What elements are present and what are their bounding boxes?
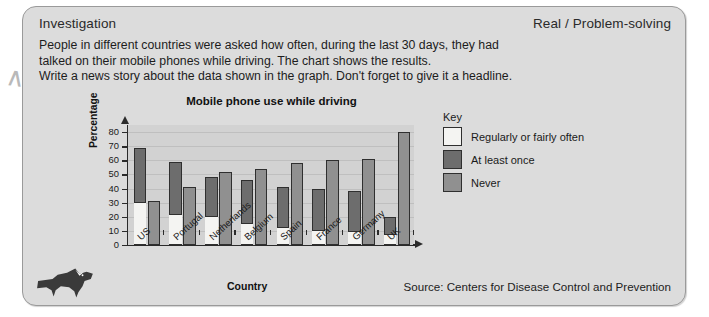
instruction-line-2: talked on their mobile phones while driv… <box>39 54 671 70</box>
chart-title-row: Mobile phone use while driving <box>23 95 685 107</box>
instruction-line-1: People in different countries were asked… <box>39 38 671 54</box>
legend-item-label: Regularly or fairly often <box>471 131 584 143</box>
y-axis-arrow-icon <box>121 116 129 124</box>
x-axis-tick <box>270 230 271 235</box>
y-axis-tick-label: 60 <box>99 155 119 164</box>
y-axis-tick-label: 40 <box>99 184 119 193</box>
x-axis-tick <box>342 230 343 235</box>
y-axis-tick-label: 70 <box>99 141 119 150</box>
x-axis-tick <box>199 230 200 235</box>
legend-swatch-icon <box>443 173 462 192</box>
legend-item: Never <box>443 173 633 192</box>
legend-swatch-icon <box>443 150 462 169</box>
x-axis-tick <box>306 230 307 235</box>
instruction-text: People in different countries were asked… <box>39 38 671 85</box>
y-axis-title: Percentage <box>88 92 99 148</box>
bar-never-us <box>148 201 161 245</box>
instruction-line-3: Write a news story about the data shown … <box>39 69 671 85</box>
x-axis-tick <box>163 230 164 235</box>
bar-never-uk <box>398 132 411 245</box>
legend-item-label: Never <box>471 177 500 189</box>
x-axis-tick <box>127 230 128 235</box>
panel-category-label: Real / Problem-solving <box>533 16 671 31</box>
screenshot-root: ∧ Investigation Real / Problem-solving P… <box>0 0 709 317</box>
y-axis-tick-label: 80 <box>99 127 119 136</box>
grid-line <box>128 132 414 133</box>
x-axis-arrow-icon <box>415 240 423 248</box>
x-axis-tick <box>234 230 235 235</box>
legend-item: At least once <box>443 150 633 169</box>
running-fox-logo-icon <box>35 265 97 299</box>
x-axis-title: Country <box>227 280 267 292</box>
chart-title: Mobile phone use while driving <box>186 95 357 107</box>
panel-title: Investigation <box>39 16 116 31</box>
y-axis-tick-label: 30 <box>99 198 119 207</box>
grid-line <box>128 146 414 147</box>
legend-title: Key <box>443 111 633 123</box>
y-axis-tick-label: 20 <box>99 212 119 221</box>
y-axis-tick-label: 10 <box>99 226 119 235</box>
x-axis-tick <box>377 230 378 235</box>
bar-chart: Percentage 01020304050607080 USPortugalN… <box>107 110 413 250</box>
source-attribution: Source: Centers for Disease Control and … <box>404 280 671 293</box>
investigation-panel: Investigation Real / Problem-solving Peo… <box>22 6 686 306</box>
legend-item: Regularly or fairly often <box>443 127 633 146</box>
y-axis-tick-label: 50 <box>99 169 119 178</box>
legend-item-label: At least once <box>471 154 535 166</box>
panel-header: Investigation Real / Problem-solving <box>39 16 671 36</box>
chart-legend: Key Regularly or fairly oftenAt least on… <box>443 111 633 196</box>
legend-swatch-icon <box>443 127 462 146</box>
x-axis-tick <box>413 230 414 235</box>
y-axis-tick-label: 0 <box>99 240 119 249</box>
